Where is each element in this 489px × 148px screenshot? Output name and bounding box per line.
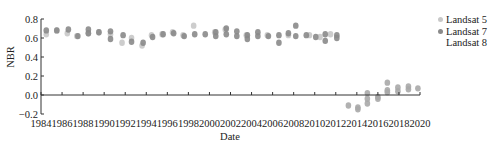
data-point: [192, 31, 198, 37]
data-point: [54, 27, 60, 33]
data-point: [119, 40, 125, 46]
data-point: [96, 29, 102, 35]
y-tick-label: 0.2: [25, 71, 38, 82]
data-point: [160, 31, 166, 37]
x-tick-label: 2006: [262, 118, 283, 129]
data-point: [223, 25, 229, 31]
data-point: [234, 33, 240, 39]
x-tick-label: 2000: [199, 118, 220, 129]
data-point: [375, 96, 381, 102]
data-point: [171, 30, 177, 36]
data-point: [86, 30, 92, 36]
data-point: [286, 30, 292, 36]
x-tick-label: 1992: [115, 118, 136, 129]
data-point: [266, 33, 272, 39]
data-point: [385, 79, 391, 85]
y-tick-label: 0.6: [25, 33, 38, 44]
data-point: [365, 96, 371, 102]
data-point: [395, 88, 401, 94]
legend-marker-icon: [438, 40, 443, 45]
x-tick-label: 1994: [136, 118, 158, 129]
x-tick-label: 2004: [241, 118, 263, 129]
x-tick-label: 1984: [31, 118, 53, 129]
legend-item-landsat-5: Landsat 5: [438, 14, 487, 26]
data-point: [255, 33, 261, 39]
x-tick-label: 1986: [52, 118, 73, 129]
x-tick-label: 2010: [304, 118, 325, 129]
data-point: [120, 32, 126, 38]
data-point: [66, 26, 72, 32]
x-tick-label: 2016: [367, 118, 388, 129]
data-point: [213, 33, 219, 39]
data-point: [181, 33, 187, 39]
data-point: [191, 22, 197, 28]
x-tick-label: 2020: [410, 118, 431, 129]
legend-label: Landsat 5: [446, 14, 487, 26]
data-point: [129, 39, 135, 45]
legend-label: Landsat 7: [446, 26, 487, 38]
y-axis-title: NBR: [5, 46, 16, 68]
data-point: [293, 22, 299, 28]
data-point: [276, 32, 282, 38]
data-point: [150, 34, 156, 40]
data-point: [334, 35, 340, 41]
data-point: [355, 104, 361, 110]
data-point: [304, 32, 310, 38]
data-point: [108, 36, 114, 42]
data-point: [328, 31, 334, 37]
x-tick-label: 2012: [325, 118, 346, 129]
x-tick-label: 2002: [220, 118, 241, 129]
legend-label: Landsat 8: [446, 37, 487, 49]
data-point: [276, 40, 282, 46]
x-tick-label: 2014: [346, 118, 368, 129]
x-tick-label: 1988: [73, 118, 94, 129]
y-tick-label: 0.8: [25, 14, 38, 25]
legend-marker-icon: [438, 17, 443, 22]
data-point: [313, 34, 319, 40]
data-point: [245, 36, 251, 42]
legend-item-landsat-7: Landsat 7: [438, 26, 487, 38]
legend-item-landsat-8: Landsat 8: [438, 37, 487, 49]
x-axis-title: Date: [220, 131, 240, 142]
legend: Landsat 5 Landsat 7 Landsat 8: [438, 14, 487, 49]
data-points: [43, 22, 420, 112]
data-point: [108, 28, 114, 34]
data-point: [322, 38, 328, 44]
y-tick-label: 0.4: [25, 52, 39, 63]
data-point: [415, 85, 421, 91]
nbr-scatter-chart: −0.20.00.20.40.60.8198419861988199019921…: [0, 0, 489, 148]
data-point: [293, 33, 299, 39]
data-point: [75, 33, 81, 39]
x-tick-label: 1990: [94, 118, 115, 129]
data-point: [43, 27, 49, 33]
x-tick-label: 1998: [178, 118, 199, 129]
data-point: [406, 86, 412, 92]
data-point: [202, 31, 208, 37]
data-point: [322, 31, 328, 37]
data-point: [346, 102, 352, 108]
x-tick-label: 2008: [283, 118, 304, 129]
y-tick-label: 0.0: [25, 90, 38, 101]
legend-marker-icon: [438, 29, 443, 34]
data-point: [223, 31, 229, 37]
data-point: [385, 89, 391, 95]
x-tick-label: 1996: [157, 118, 178, 129]
x-tick-label: 2018: [388, 118, 409, 129]
data-point: [140, 40, 146, 46]
